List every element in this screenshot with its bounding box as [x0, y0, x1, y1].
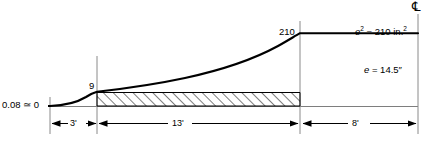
e-value-label: e = 14.5″: [364, 64, 402, 75]
engineering-diagram: 0.08 ≃ 0 9 210 e2 = 210 in.2 e = 14.5″ ℄…: [0, 0, 435, 150]
ordinate-210-label: 210: [279, 26, 295, 37]
hatched-region: [97, 93, 300, 107]
origin-value-label: 0.08 ≃ 0: [2, 99, 39, 110]
dimension-label-8ft: 8': [350, 118, 361, 128]
ordinate-9-label: 9: [89, 80, 94, 91]
e-squared-label: e2 = 210 in.2: [355, 25, 407, 37]
dimension-label-3ft: 3': [68, 118, 79, 128]
diagram-canvas: [0, 0, 435, 150]
centerline-icon: ℄: [412, 0, 420, 13]
e-value-remainder: = 14.5″: [369, 64, 402, 75]
e-squared-unit-exponent: 2: [403, 25, 407, 32]
e-squared-remainder: = 210 in.: [364, 26, 403, 37]
dimension-label-13ft: 13': [170, 118, 186, 128]
